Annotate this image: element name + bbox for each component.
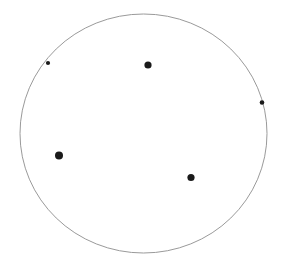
point-on-boundary-upper-left [46, 61, 50, 65]
point-on-boundary-right [260, 100, 265, 105]
point-bottom-center [187, 174, 194, 181]
scatter-plot-svg [0, 0, 282, 272]
plot-background [0, 0, 282, 272]
point-left-lower [55, 152, 63, 160]
chart-canvas [0, 0, 282, 272]
point-top-center [144, 61, 151, 68]
